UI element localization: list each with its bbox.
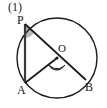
point-o-dot: [55, 56, 58, 59]
point-label-p: P: [17, 14, 24, 26]
point-label-a: A: [17, 84, 26, 96]
figure-number-label: (1): [8, 1, 22, 13]
point-label-o: O: [58, 43, 66, 54]
segment-pb: [25, 24, 86, 80]
segment-ao: [25, 58, 57, 83]
point-label-b: B: [85, 81, 93, 93]
figure-container: (1) P O A B: [0, 0, 107, 108]
